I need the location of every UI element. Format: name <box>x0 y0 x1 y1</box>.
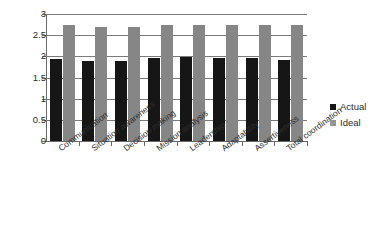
bar-ideal-0[interactable] <box>63 25 75 141</box>
x-axis-tick <box>307 141 308 146</box>
legend: Actual Ideal <box>330 99 366 131</box>
bar-ideal-6[interactable] <box>259 25 271 141</box>
legend-swatch-actual-icon <box>330 104 336 110</box>
bar-actual-0[interactable] <box>50 59 62 141</box>
legend-item-actual[interactable]: Actual <box>330 99 366 115</box>
y-axis-label: 0 <box>24 136 46 146</box>
y-axis-label: 2 <box>24 51 46 61</box>
bar-chart: 3 2.5 2 1.5 1 0.5 0 CommunicationSituati… <box>0 0 387 228</box>
x-axis-tick <box>79 141 80 146</box>
y-axis-label: 1 <box>24 94 46 104</box>
legend-item-ideal[interactable]: Ideal <box>330 115 366 131</box>
x-axis-tick <box>209 141 210 146</box>
x-axis-tick <box>177 141 178 146</box>
legend-swatch-ideal-icon <box>330 120 336 126</box>
bar-ideal-5[interactable] <box>226 25 238 141</box>
x-axis-tick <box>242 141 243 146</box>
legend-label: Actual <box>340 102 366 112</box>
legend-label: Ideal <box>340 118 361 128</box>
y-axis-label: 2.5 <box>24 30 46 40</box>
y-axis-label: 0.5 <box>24 115 46 125</box>
x-axis-tick <box>144 141 145 146</box>
y-axis-label: 1.5 <box>24 73 46 83</box>
gridline <box>46 14 307 15</box>
y-axis-label: 3 <box>24 9 46 19</box>
x-axis-tick <box>111 141 112 146</box>
x-axis-tick <box>274 141 275 146</box>
